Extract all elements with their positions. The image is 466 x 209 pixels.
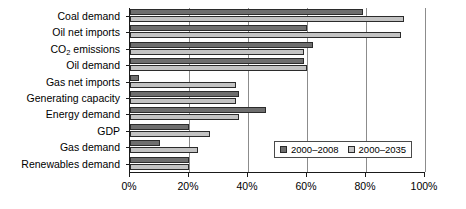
category-tick xyxy=(126,98,130,99)
category-tick xyxy=(126,32,130,33)
x-tick-80 xyxy=(365,172,366,177)
bar-group xyxy=(130,57,425,73)
bar-recent xyxy=(130,124,189,130)
bar-recent xyxy=(130,140,160,146)
bar-future xyxy=(130,32,401,38)
category-label-generating-capacity: Generating capacity xyxy=(27,90,120,106)
legend-swatch-future xyxy=(348,146,355,153)
bar-recent xyxy=(130,75,139,81)
bar-future xyxy=(130,164,189,170)
bar-recent xyxy=(130,42,313,48)
bar-recent xyxy=(130,107,266,113)
x-tick-label-20: 20% xyxy=(177,180,198,192)
category-label-gdp: GDP xyxy=(97,123,120,139)
category-label-oil-demand: Oil demand xyxy=(66,57,120,73)
x-axis-line xyxy=(129,172,424,173)
bar-future xyxy=(130,16,404,22)
bar-future xyxy=(130,131,210,137)
legend-label: 2000–2008 xyxy=(291,144,339,155)
bar-future xyxy=(130,49,304,55)
category-tick xyxy=(126,114,130,115)
category-tick xyxy=(126,16,130,17)
bar-future xyxy=(130,147,198,153)
category-tick xyxy=(126,147,130,148)
x-tick-label-80: 80% xyxy=(354,180,375,192)
category-label-gas-demand: Gas demand xyxy=(60,139,120,155)
x-tick-100 xyxy=(424,172,425,177)
x-tick-label-40: 40% xyxy=(236,180,257,192)
bar-group xyxy=(130,90,425,106)
legend-entry: 2000–2035 xyxy=(348,144,407,155)
bar-group xyxy=(130,74,425,90)
bar-recent xyxy=(130,91,239,97)
bar-group xyxy=(130,41,425,57)
x-tick-label-60: 60% xyxy=(295,180,316,192)
gridline-100 xyxy=(425,8,426,172)
bar-future xyxy=(130,114,239,120)
bar-recent xyxy=(130,9,363,15)
bar-group xyxy=(130,8,425,24)
horizontal-bar-chart: Coal demandOil net importsCO2 emissionsO… xyxy=(0,0,466,209)
bar-recent xyxy=(130,25,307,31)
x-tick-40 xyxy=(247,172,248,177)
category-tick xyxy=(126,164,130,165)
bar-group xyxy=(130,106,425,122)
chart-legend: 2000–20082000–2035 xyxy=(274,141,412,158)
category-tick xyxy=(126,65,130,66)
x-tick-label-0: 0% xyxy=(121,180,136,192)
bar-recent xyxy=(130,157,189,163)
category-label-co2-emissions: CO2 emissions xyxy=(50,41,120,57)
bar-future xyxy=(130,82,236,88)
bar-future xyxy=(130,65,307,71)
legend-entry: 2000–2008 xyxy=(280,144,339,155)
legend-swatch-recent xyxy=(280,146,287,153)
x-tick-20 xyxy=(188,172,189,177)
bar-group xyxy=(130,24,425,40)
x-tick-label-100: 100% xyxy=(411,180,438,192)
category-label-energy-demand: Energy demand xyxy=(46,106,120,122)
category-tick xyxy=(126,131,130,132)
x-tick-0 xyxy=(129,172,130,177)
category-tick xyxy=(126,49,130,50)
category-axis: Coal demandOil net importsCO2 emissionsO… xyxy=(0,8,126,172)
category-label-renewables-demand: Renewables demand xyxy=(21,156,120,172)
category-label-gas-net-imports: Gas net imports xyxy=(46,74,120,90)
category-label-coal-demand: Coal demand xyxy=(58,8,120,24)
x-tick-60 xyxy=(306,172,307,177)
bar-recent xyxy=(130,58,304,64)
bar-future xyxy=(130,98,236,104)
legend-label: 2000–2035 xyxy=(359,144,407,155)
category-tick xyxy=(126,82,130,83)
bar-group xyxy=(130,123,425,139)
category-label-oil-net-imports: Oil net imports xyxy=(52,24,120,40)
